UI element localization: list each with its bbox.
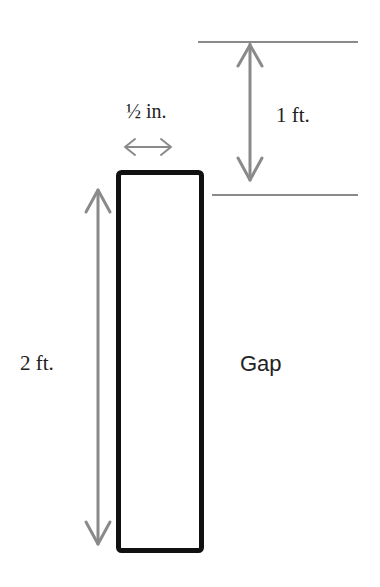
half-inch-dimension-arrow-icon bbox=[125, 139, 171, 155]
top-gap-label: 1 ft. bbox=[276, 103, 310, 127]
gap-label: Gap bbox=[240, 351, 282, 376]
two-foot-dimension-arrow-icon bbox=[86, 190, 110, 544]
gap-diagram: 1 ft. ½ in. 2 ft. Gap bbox=[0, 0, 380, 587]
one-foot-dimension-arrow-icon bbox=[238, 44, 262, 180]
height-label: 2 ft. bbox=[20, 351, 54, 375]
board-rectangle bbox=[119, 173, 202, 551]
width-label: ½ in. bbox=[126, 100, 167, 122]
